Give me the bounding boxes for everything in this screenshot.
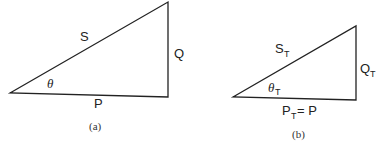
label-st-sub: T <box>284 49 290 59</box>
label-pt: P <box>282 103 291 118</box>
label-theta-t: θ <box>268 80 275 95</box>
triangle-b: S T Q T P T = P θ T (b) <box>233 26 376 141</box>
triangle-b-shape <box>233 26 356 100</box>
label-theta: θ <box>47 76 54 91</box>
caption-a: (a) <box>89 120 102 133</box>
caption-b: (b) <box>292 128 305 141</box>
label-pt-eq: = P <box>297 103 317 118</box>
label-theta-t-sub: T <box>275 87 281 97</box>
triangle-a: S Q P θ (a) <box>10 2 184 133</box>
label-q: Q <box>174 46 184 61</box>
power-triangle-diagram: S Q P θ (a) S T Q T P T = P θ T (b) <box>0 0 380 148</box>
label-st: S <box>275 41 284 56</box>
label-qt: Q <box>360 61 370 76</box>
label-s: S <box>80 29 89 44</box>
label-qt-sub: T <box>370 69 376 79</box>
triangle-a-shape <box>10 2 168 97</box>
label-p: P <box>94 96 103 111</box>
